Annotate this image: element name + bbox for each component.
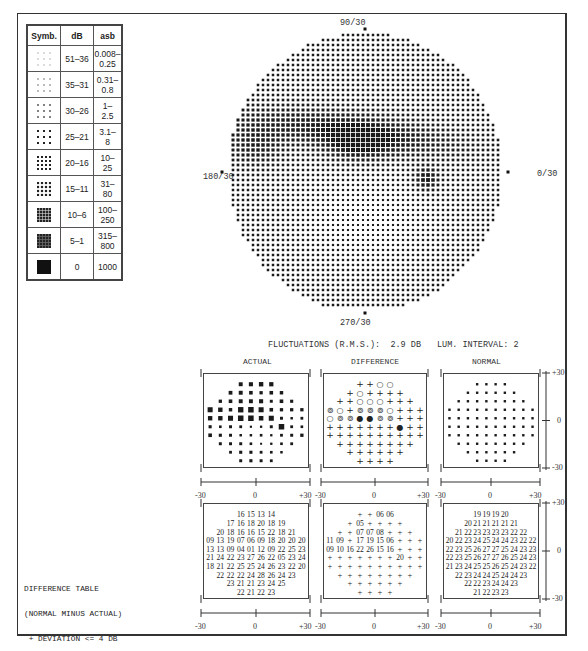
- legend-asb-value: 31–80: [94, 176, 123, 202]
- x-tick-plus30: +30: [529, 491, 542, 500]
- x-tick-0: 0: [488, 622, 492, 631]
- fluctuations-text: FLUCTUATIONS (R.M.S.): 2.9 DB: [268, 340, 421, 350]
- legend-asb-value: 1–2.5: [94, 98, 123, 124]
- x-tick-plus30: +30: [417, 622, 430, 631]
- legend-db-value: 20–16: [61, 150, 94, 176]
- legend-row: 25–213.1–8: [27, 124, 122, 150]
- y-tick-0: 0: [557, 416, 561, 425]
- plus-icon: +: [24, 635, 38, 643]
- x-tick-0: 0: [372, 622, 376, 631]
- x-tick-0: 0: [488, 491, 492, 500]
- legend-db-value: 35–31: [61, 72, 94, 98]
- y-tick-minus30: -30: [552, 594, 563, 603]
- normal-value-panel: [443, 503, 539, 599]
- legend-row: 10–6100–250: [27, 202, 122, 228]
- legend-db-value: 25–21: [61, 124, 94, 150]
- y-tick-minus30: -30: [552, 463, 563, 472]
- difference-symbol-panel: [323, 373, 427, 468]
- legend-row: 20–1610–25: [27, 150, 122, 176]
- greyscale-symbol-icon: [27, 124, 61, 150]
- x-tick-minus30: -30: [195, 622, 206, 631]
- actual-title: ACTUAL: [243, 357, 272, 366]
- legend-asb-value: 315–800: [94, 228, 123, 254]
- greyscale-symbol-icon: [27, 150, 61, 176]
- y-tick-plus30: +30: [552, 498, 565, 507]
- greyscale-symbol-icon: [27, 98, 61, 124]
- normal-title: NORMAL: [472, 357, 501, 366]
- difference-legend-title: DIFFERENCE TABLE: [24, 585, 132, 593]
- legend-item-plus: +DEVIATION <= 4 DB: [24, 635, 132, 643]
- legend-db-value: 30–26: [61, 98, 94, 124]
- header-db: dB: [61, 25, 94, 46]
- legend-db-value: 15–11: [61, 176, 94, 202]
- x-tick-0: 0: [253, 491, 257, 500]
- greyscale-symbol-icon: [27, 228, 61, 254]
- x-tick-plus30: +30: [417, 491, 430, 500]
- difference-legend-subtitle: (NORMAL MINUS ACTUAL): [24, 610, 132, 618]
- normal-symbol-panel: [443, 373, 539, 468]
- x-tick-minus30: -30: [315, 491, 326, 500]
- x-tick-minus30: -30: [195, 491, 206, 500]
- legend-row: 15–1131–80: [27, 176, 122, 202]
- header-symbol: Symb.: [27, 25, 61, 46]
- greyscale-symbol-icon: [27, 46, 61, 72]
- legend-asb-value: 1000: [94, 254, 123, 281]
- legend-row: 35–310.31–0.8: [27, 72, 122, 98]
- greyscale-symbol-icon: [27, 72, 61, 98]
- greyscale-visual-field: [215, 20, 515, 320]
- label-0: 0/30: [537, 169, 557, 179]
- x-tick-0: 0: [253, 622, 257, 631]
- greyscale-symbol-icon: [27, 202, 61, 228]
- x-tick-plus30: +30: [299, 622, 312, 631]
- x-tick-minus30: -30: [315, 622, 326, 631]
- difference-title: DIFFERENCE: [351, 357, 399, 366]
- legend-row: 30–261–2.5: [27, 98, 122, 124]
- legend-db-value: 10–6: [61, 202, 94, 228]
- greyscale-symbol-icon: [27, 254, 61, 281]
- legend-db-value: 5–1: [61, 228, 94, 254]
- greyscale-legend-table: Symb. dB asb 51–360.008–0.2535–310.31–0.…: [26, 24, 123, 281]
- header-asb: asb: [94, 25, 123, 46]
- x-tick-plus30: +30: [299, 491, 312, 500]
- legend-row: 5–1315–800: [27, 228, 122, 254]
- legend-asb-value: 3.1–8: [94, 124, 123, 150]
- x-tick-minus30: -30: [435, 491, 446, 500]
- greyscale-symbol-icon: [27, 176, 61, 202]
- actual-value-panel: [203, 503, 309, 599]
- legend-row: 51–360.008–0.25: [27, 46, 122, 72]
- x-tick-minus30: -30: [435, 622, 446, 631]
- legend-asb-value: 0.008–0.25: [94, 46, 123, 72]
- actual-symbol-panel: [203, 373, 309, 468]
- legend-row: 01000: [27, 254, 122, 281]
- x-tick-0: 0: [372, 491, 376, 500]
- x-tick-plus30: +30: [529, 622, 542, 631]
- legend-asb-value: 100–250: [94, 202, 123, 228]
- legend-asb-value: 0.31–0.8: [94, 72, 123, 98]
- y-tick-plus30: +30: [552, 368, 565, 377]
- y-tick-0: 0: [557, 546, 561, 555]
- legend-db-value: 51–36: [61, 46, 94, 72]
- lum-interval-text: LUM. INTERVAL: 2: [437, 340, 519, 350]
- difference-legend: DIFFERENCE TABLE (NORMAL MINUS ACTUAL) +…: [24, 568, 132, 651]
- difference-value-panel: [323, 503, 427, 599]
- legend-asb-value: 10–25: [94, 150, 123, 176]
- legend-db-value: 0: [61, 254, 94, 281]
